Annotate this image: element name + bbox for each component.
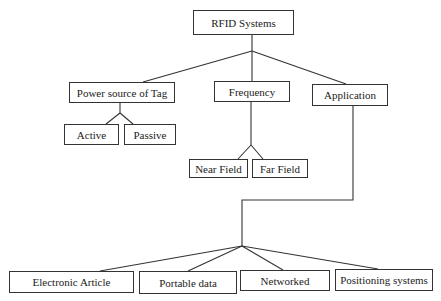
node-positioning-systems: Positioning systems (335, 269, 433, 291)
node-application: Application (312, 84, 388, 106)
node-power-source: Power source of Tag (69, 82, 175, 103)
node-electronic-article: Electronic Article (9, 271, 134, 293)
rfid-tree-diagram: RFID Systems Power source of Tag Frequen… (0, 0, 441, 301)
connector-lines (0, 0, 441, 301)
node-portable-data: Portable data (139, 271, 237, 294)
node-rfid-systems: RFID Systems (193, 10, 294, 35)
node-active: Active (64, 124, 119, 145)
node-networked: Networked (240, 270, 330, 291)
node-near-field: Near Field (189, 159, 248, 178)
node-passive: Passive (124, 124, 176, 145)
node-frequency: Frequency (214, 81, 290, 102)
node-far-field: Far Field (252, 159, 308, 178)
